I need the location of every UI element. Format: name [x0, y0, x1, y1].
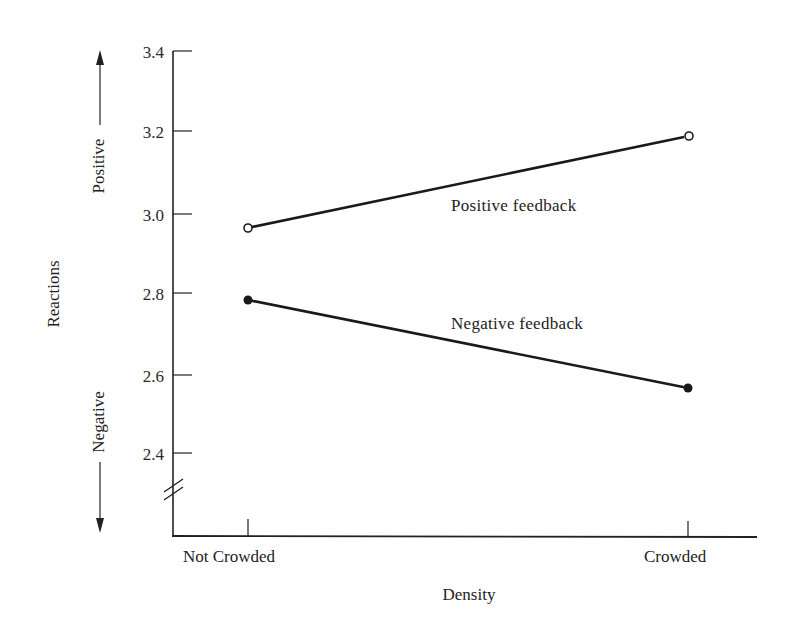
x-axis	[172, 536, 757, 537]
y-tick-label: 3.2	[143, 123, 164, 142]
arrow-down-icon	[96, 518, 104, 533]
series-label-positive-feedback: Positive feedback	[451, 196, 577, 215]
y-tick-label: 2.4	[143, 445, 165, 464]
y-tick-label: 3.4	[143, 43, 165, 62]
negative-direction-annotation: Negative	[89, 391, 108, 533]
arrow-up-icon	[96, 50, 104, 65]
line-chart: 3.4 3.2 3.0 2.8 2.6 2.4 Not Crowded Crow…	[0, 0, 787, 637]
y-tick-label: 2.6	[143, 367, 164, 386]
series-negative-feedback	[244, 296, 693, 393]
y-ticks	[173, 51, 192, 453]
series-label-negative-feedback: Negative feedback	[451, 314, 583, 333]
x-category-crowded: Crowded	[644, 547, 707, 566]
data-point-open-circle	[685, 132, 693, 140]
data-point-filled-circle	[244, 296, 253, 305]
data-point-filled-circle	[684, 384, 693, 393]
positive-direction-annotation: Positive	[89, 50, 108, 193]
x-category-not-crowded: Not Crowded	[183, 547, 276, 566]
x-axis-title: Density	[443, 585, 496, 604]
y-tick-label: 2.8	[143, 285, 164, 304]
series-positive-feedback	[244, 132, 693, 232]
y-axis-title: Reactions	[44, 260, 63, 327]
negative-direction-label: Negative	[89, 391, 108, 452]
x-ticks	[248, 519, 688, 537]
y-tick-label: 3.0	[143, 206, 164, 225]
data-point-open-circle	[244, 224, 252, 232]
positive-direction-label: Positive	[89, 139, 108, 194]
